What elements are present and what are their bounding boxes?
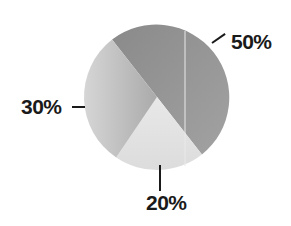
pie-chart: 50% 30% 20% [0, 0, 291, 226]
data-label-50: 50% [231, 30, 272, 54]
leader-line-30 [72, 106, 85, 108]
data-label-20: 20% [146, 191, 187, 215]
leader-line-20 [159, 165, 161, 191]
pie-slices [84, 25, 229, 170]
data-label-30: 30% [21, 95, 62, 119]
